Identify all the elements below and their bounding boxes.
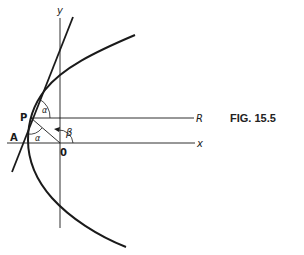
alpha-label-lower: α	[35, 134, 41, 143]
point-a-label: A	[10, 132, 18, 143]
figure-caption: FIG. 15.5	[230, 112, 276, 124]
beta-label: β	[65, 127, 73, 138]
parabola-curve	[28, 35, 135, 247]
origin-label: 0	[60, 147, 67, 158]
beta-arrowhead	[54, 127, 60, 132]
parabola-tangent-diagram: y x R α α β P A 0 FIG. 15.5	[0, 0, 304, 255]
alpha-label-upper: α	[42, 106, 48, 115]
x-axis-label: x	[196, 138, 203, 149]
point-p-label: P	[20, 112, 27, 123]
y-axis-label: y	[56, 5, 64, 16]
point-r-label: R	[196, 113, 203, 124]
